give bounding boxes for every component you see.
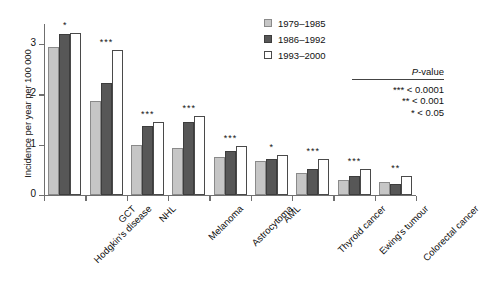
x-category-label: Melanoma bbox=[206, 203, 245, 242]
legend-swatch-icon bbox=[264, 35, 272, 43]
bar bbox=[255, 161, 266, 195]
legend-swatch-icon bbox=[264, 19, 272, 27]
y-tick-3 bbox=[39, 44, 44, 45]
legend-item[interactable]: 1986–1992 bbox=[264, 32, 326, 46]
x-category-label: NHL bbox=[157, 203, 178, 224]
y-tick-label-0: 0 bbox=[22, 188, 36, 199]
bar bbox=[101, 83, 112, 195]
y-tick-label-3: 3 bbox=[22, 37, 36, 48]
bar bbox=[131, 145, 142, 195]
y-tick-2 bbox=[39, 94, 44, 95]
p-value-key-rows: *** < 0.0001** < 0.001* < 0.05 bbox=[352, 84, 444, 119]
x-tick bbox=[292, 196, 293, 201]
bar bbox=[59, 34, 70, 195]
legend-item[interactable]: 1979–1985 bbox=[264, 16, 326, 30]
x-tick bbox=[375, 196, 376, 201]
bar bbox=[349, 176, 360, 195]
significance-marker: *** bbox=[293, 147, 333, 155]
x-category-label: Colorectal cancer bbox=[421, 203, 481, 263]
bar bbox=[307, 169, 318, 195]
bar-group: * bbox=[48, 24, 81, 195]
x-tick bbox=[416, 196, 417, 201]
legend: 1979–19851986–19921993–2000 bbox=[264, 16, 326, 64]
bar bbox=[236, 146, 247, 195]
x-axis-line bbox=[44, 195, 416, 196]
bar-group: *** bbox=[172, 24, 205, 195]
x-tick bbox=[333, 196, 334, 201]
bar bbox=[266, 159, 277, 195]
bar bbox=[225, 151, 236, 195]
bar bbox=[379, 182, 390, 195]
y-tick-label-2: 2 bbox=[22, 87, 36, 98]
x-tick bbox=[44, 196, 45, 201]
bar bbox=[194, 116, 205, 195]
significance-marker: * bbox=[45, 21, 85, 29]
x-tick bbox=[127, 196, 128, 201]
legend-swatch-icon bbox=[264, 51, 272, 59]
p-value-suffix: -value bbox=[418, 66, 444, 77]
legend-item-label: 1986–1992 bbox=[278, 34, 326, 45]
bar-group: *** bbox=[131, 24, 164, 195]
bar bbox=[172, 148, 183, 195]
legend-item[interactable]: 1993–2000 bbox=[264, 48, 326, 62]
bar bbox=[153, 122, 164, 195]
bar bbox=[277, 155, 288, 195]
bar bbox=[338, 180, 349, 195]
bar bbox=[112, 50, 123, 195]
bar bbox=[296, 173, 307, 195]
bar bbox=[48, 47, 59, 195]
p-value-key: P-value *** < 0.0001** < 0.001* < 0.05 bbox=[352, 66, 444, 118]
significance-marker: *** bbox=[169, 104, 209, 112]
bar bbox=[401, 176, 412, 195]
significance-marker: *** bbox=[211, 134, 251, 142]
p-value-key-row: * < 0.05 bbox=[352, 107, 444, 119]
x-tick bbox=[168, 196, 169, 201]
p-value-key-row: ** < 0.001 bbox=[352, 95, 444, 107]
legend-item-label: 1979–1985 bbox=[278, 18, 326, 29]
significance-marker: ** bbox=[376, 164, 416, 172]
x-tick bbox=[85, 196, 86, 201]
x-tick bbox=[209, 196, 210, 201]
y-tick-1 bbox=[39, 145, 44, 146]
bar bbox=[390, 184, 401, 195]
significance-marker: *** bbox=[128, 110, 168, 118]
bar bbox=[142, 126, 153, 195]
significance-marker: *** bbox=[87, 38, 127, 46]
p-value-key-title: P-value bbox=[352, 66, 444, 79]
significance-marker: * bbox=[252, 143, 292, 151]
significance-marker: *** bbox=[335, 157, 375, 165]
legend-item-label: 1993–2000 bbox=[278, 50, 326, 61]
bar bbox=[318, 159, 329, 195]
bar bbox=[214, 157, 225, 195]
bar bbox=[90, 101, 101, 195]
bar-group: *** bbox=[90, 24, 123, 195]
y-axis-line bbox=[44, 24, 45, 196]
bar bbox=[360, 169, 371, 195]
y-tick-label-1: 1 bbox=[22, 138, 36, 149]
bar bbox=[70, 33, 81, 195]
bar-group: *** bbox=[214, 24, 247, 195]
x-tick bbox=[251, 196, 252, 201]
p-value-key-row: *** < 0.0001 bbox=[352, 84, 444, 96]
p-value-key-rule bbox=[352, 79, 444, 80]
bar bbox=[183, 122, 194, 195]
